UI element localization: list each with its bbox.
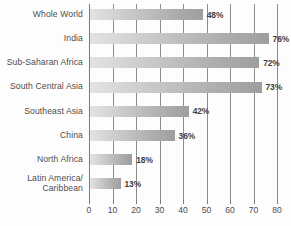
bar-value-label: 13%: [125, 179, 141, 189]
category-label: Southeast Asia: [0, 107, 83, 117]
x-axis: 01020304050607080: [89, 200, 277, 222]
x-tick-label: 40: [171, 205, 195, 215]
x-tick-mark: [113, 200, 114, 204]
x-tick-mark: [160, 200, 161, 204]
bar-value-label: 76%: [273, 34, 289, 44]
category-label: North Africa: [0, 155, 83, 165]
bar: [90, 154, 132, 165]
bar-value-label: 18%: [136, 155, 152, 165]
bar: [90, 33, 269, 44]
category-label: Sub-Saharan Africa: [0, 58, 83, 68]
bar-value-label: 42%: [193, 106, 209, 116]
bar: [90, 9, 203, 20]
x-tick-label: 70: [242, 205, 266, 215]
x-tick-label: 0: [77, 205, 101, 215]
bar: [90, 106, 189, 117]
category-label: Latin America/ Caribbean: [0, 174, 83, 193]
bar-value-label: 36%: [179, 131, 195, 141]
x-tick-mark: [89, 200, 90, 204]
x-tick-label: 50: [195, 205, 219, 215]
x-tick-label: 10: [101, 205, 125, 215]
x-tick-label: 20: [124, 205, 148, 215]
x-tick-mark: [277, 200, 278, 204]
x-tick-mark: [136, 200, 137, 204]
bar-value-label: 48%: [207, 10, 223, 20]
x-tick-mark: [207, 200, 208, 204]
bar-value-label: 72%: [263, 58, 279, 68]
bar: [90, 82, 262, 93]
bar: [90, 178, 121, 189]
bar-chart: Whole WorldIndiaSub-Saharan AfricaSouth …: [0, 0, 291, 226]
bar-value-label: 73%: [266, 82, 282, 92]
category-axis: Whole WorldIndiaSub-Saharan AfricaSouth …: [0, 0, 86, 204]
x-tick-mark: [230, 200, 231, 204]
plot-area: 48%76%72%73%42%36%18%13%: [89, 4, 277, 200]
category-label: Whole World: [0, 10, 83, 20]
x-tick-label: 30: [148, 205, 172, 215]
bar: [90, 130, 175, 141]
x-tick-mark: [183, 200, 184, 204]
category-label: India: [0, 34, 83, 44]
bar: [90, 57, 259, 68]
bar-series: 48%76%72%73%42%36%18%13%: [89, 4, 277, 200]
x-tick-mark: [254, 200, 255, 204]
category-label: China: [0, 131, 83, 141]
category-label: South Central Asia: [0, 82, 83, 92]
x-tick-label: 60: [218, 205, 242, 215]
x-tick-label: 80: [265, 205, 289, 215]
